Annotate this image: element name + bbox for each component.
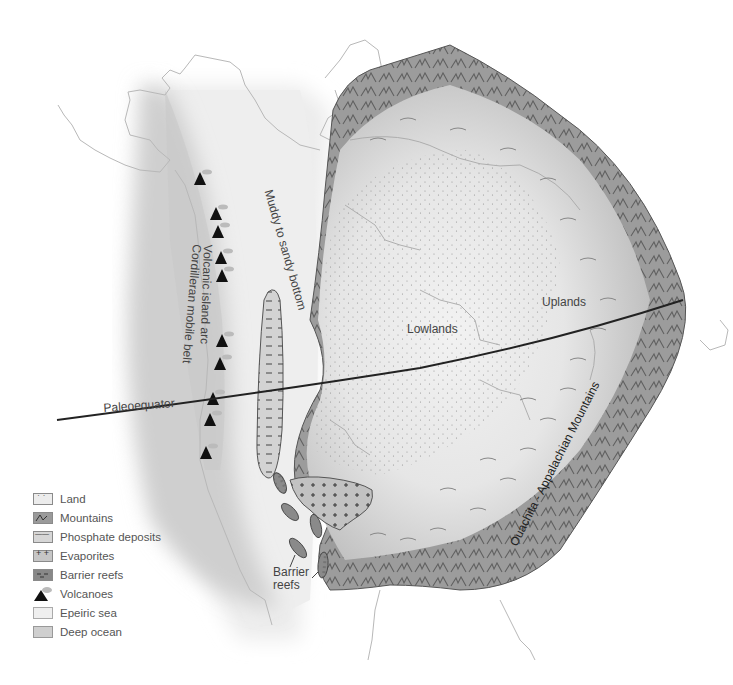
map-legend: Land Mountains Phosphate deposits Evapor… (33, 489, 161, 641)
legend-item-deep-ocean: Deep ocean (33, 622, 161, 641)
label-barrier-reefs: Barrier reefs (273, 566, 309, 592)
mountains-swatch-icon (33, 512, 53, 524)
volcano-icon (33, 586, 53, 602)
phosphate-swatch-icon (33, 531, 53, 543)
legend-label: Deep ocean (60, 626, 122, 638)
legend-label: Evaporites (60, 550, 114, 562)
legend-label: Volcanoes (60, 588, 113, 600)
legend-item-mountains: Mountains (33, 508, 161, 527)
land-swatch-icon (33, 493, 53, 505)
legend-item-land: Land (33, 489, 161, 508)
legend-label: Mountains (60, 512, 113, 524)
legend-label: Barrier reefs (60, 569, 123, 581)
label-reefs: reefs (273, 579, 309, 592)
legend-label: Phosphate deposits (60, 531, 161, 543)
legend-item-evaporites: Evaporites (33, 546, 161, 565)
barrier-reefs-swatch-icon (33, 569, 53, 581)
legend-item-barrier-reefs: Barrier reefs (33, 565, 161, 584)
legend-item-phosphate: Phosphate deposits (33, 527, 161, 546)
evaporites-swatch-icon (33, 550, 53, 562)
label-uplands: Uplands (542, 295, 586, 309)
legend-item-epeiric-sea: Epeiric sea (33, 603, 161, 622)
legend-label: Land (60, 493, 86, 505)
epeiric-sea-swatch-icon (33, 607, 53, 619)
legend-item-volcanoes: Volcanoes (33, 584, 161, 603)
label-lowlands: Lowlands (407, 322, 458, 336)
legend-label: Epeiric sea (60, 607, 117, 619)
deep-ocean-swatch-icon (33, 626, 53, 638)
